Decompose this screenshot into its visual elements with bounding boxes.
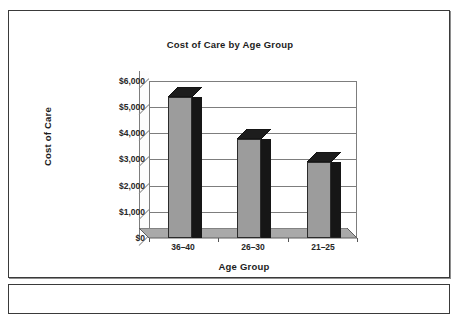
x-tick-label: 26–30 bbox=[223, 242, 283, 252]
x-tick-mark bbox=[288, 238, 289, 242]
x-tick-mark bbox=[149, 238, 150, 242]
bar-front-face bbox=[237, 139, 261, 238]
bar-side-face bbox=[331, 162, 341, 238]
secondary-panel bbox=[8, 284, 450, 314]
y-tick-label: $3,000 bbox=[101, 154, 145, 164]
y-tick-label: $6,000 bbox=[101, 76, 145, 86]
bar-top-face bbox=[307, 152, 331, 162]
bar-top-face bbox=[237, 129, 261, 139]
bar-21-25[interactable] bbox=[307, 152, 331, 238]
y-tick-label: $0 bbox=[101, 233, 145, 243]
y-tick-label: $1,000 bbox=[101, 207, 145, 217]
bar-side-face bbox=[261, 139, 271, 238]
y-tick-label: $2,000 bbox=[101, 181, 145, 191]
bar-front-face bbox=[168, 97, 192, 238]
bar-front-face bbox=[307, 162, 331, 238]
chart-panel: Cost of Care by Age Group Cost of Care A… bbox=[8, 10, 450, 278]
x-tick-label: 36–40 bbox=[153, 242, 213, 252]
x-tick-mark bbox=[357, 238, 358, 242]
bar-side-face bbox=[192, 97, 202, 238]
y-tick-label: $5,000 bbox=[101, 102, 145, 112]
bar-top-face bbox=[168, 87, 192, 97]
bar-36-40[interactable] bbox=[168, 87, 192, 238]
x-tick-label: 21–25 bbox=[293, 242, 353, 252]
x-tick-mark bbox=[218, 238, 219, 242]
plot-area: $6,000 $5,000 $4,000 $3,000 $2,000 $1,00… bbox=[9, 11, 451, 279]
bar-26-30[interactable] bbox=[237, 129, 261, 238]
y-tick-label: $4,000 bbox=[101, 128, 145, 138]
y-axis-tick-labels: $6,000 $5,000 $4,000 $3,000 $2,000 $1,00… bbox=[101, 11, 145, 279]
